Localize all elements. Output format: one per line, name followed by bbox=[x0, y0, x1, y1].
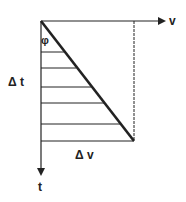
velocity-time-diagram: v t φ Δ t Δ v bbox=[0, 0, 186, 202]
t-axis-arrowhead bbox=[37, 168, 45, 176]
delta-t-label: Δ t bbox=[8, 75, 24, 89]
delta-v-label: Δ v bbox=[75, 148, 94, 162]
diagonal-line bbox=[41, 21, 134, 141]
hatch-lines bbox=[41, 52, 120, 124]
angle-phi-label: φ bbox=[41, 34, 49, 46]
v-axis-label: v bbox=[169, 14, 176, 28]
v-axis-arrowhead bbox=[158, 17, 166, 25]
t-axis-label: t bbox=[38, 180, 42, 194]
